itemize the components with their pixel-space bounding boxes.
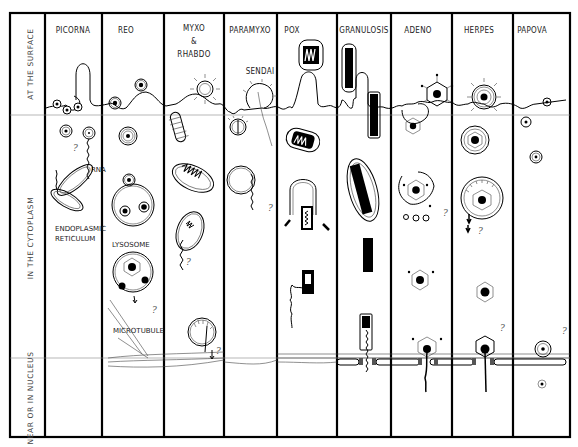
picorna-cell: ? RNA ENDOPLASMIC RETICULUM	[48, 100, 106, 243]
question-mark: ?	[500, 323, 505, 333]
myxo-rhabdo-cell: ? ?	[168, 74, 221, 359]
label-rna: RNA	[91, 166, 106, 174]
question-mark: ?	[478, 226, 483, 236]
virus-entry-diagram: AT THE SURFACE IN THE CYTOPLASM NEAR OR …	[0, 0, 578, 447]
column-title-papova: PAPOVA	[517, 26, 547, 35]
paramyxo-cell: ?	[224, 79, 277, 364]
granulosis-cell	[341, 44, 385, 372]
column-title-granulosis: GRANULOSIS	[339, 26, 389, 35]
label-reticulum: RETICULUM	[55, 235, 95, 243]
column-title-adeno: ADENO	[404, 26, 432, 35]
question-mark: ?	[268, 203, 273, 213]
question-mark: ?	[152, 305, 157, 315]
column-subtitle-sendai: SENDAI	[246, 67, 275, 76]
column-title-reo: REO	[118, 26, 134, 35]
column-title-pox: POX	[284, 26, 299, 35]
label-endoplasmic: ENDOPLASMIC	[55, 225, 106, 233]
column-title-amp: &	[191, 37, 197, 46]
label-microtubule: MICROTUBULE	[113, 327, 164, 335]
question-mark: ?	[216, 346, 221, 356]
herpes-cell: ? ?	[461, 78, 505, 392]
column-title-myxo: MYXO	[183, 24, 205, 33]
column-title-rhabdo: RHABDO	[177, 50, 210, 59]
column-title-herpes: HERPES	[464, 26, 494, 35]
reo-cell: LYSOSOME ? MICROTUBULE	[108, 79, 224, 367]
question-mark: ?	[73, 143, 78, 153]
adeno-cell: ?	[399, 74, 453, 392]
column-title-paramyxo: PARAMYXO	[229, 26, 270, 35]
row-label-surface: AT THE SURFACE	[26, 28, 35, 99]
pox-cell	[284, 40, 329, 328]
nuclear-membrane	[277, 354, 570, 365]
column-title-picorna: PICORNA	[56, 26, 91, 35]
label-lysosome: LYSOSOME	[112, 241, 150, 249]
row-label-nucleus: NEAR OR IN NUCLEUS	[26, 351, 35, 444]
question-mark: ?	[562, 326, 567, 336]
question-mark: ?	[186, 257, 191, 267]
question-mark: ?	[443, 208, 448, 218]
row-label-cytoplasm: IN THE CYTOPLASM	[26, 197, 35, 280]
papova-cell: ?	[521, 98, 567, 388]
